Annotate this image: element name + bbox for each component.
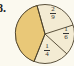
denominator: 4 [45,50,49,58]
slice-label-1-4: 1 4 [43,43,51,58]
numerator: 2 [51,5,55,13]
numerator: 1 [45,42,49,50]
slice-label-2-9: 2 9 [49,6,57,21]
denominator: 9 [51,13,55,21]
slice-label-1-6: 1 6 [62,26,70,41]
denominator: 6 [64,33,68,41]
numerator: 1 [64,25,68,33]
